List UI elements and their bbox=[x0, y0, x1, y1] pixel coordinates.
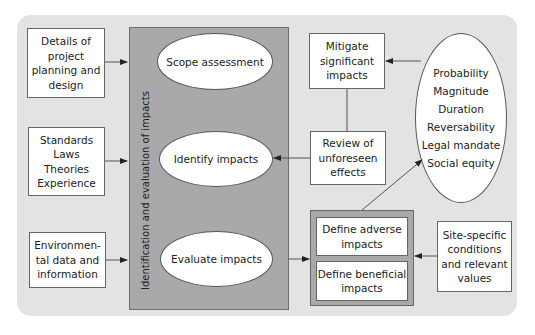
connector-arrows bbox=[0, 0, 535, 335]
arrow-define-to-criteria bbox=[362, 160, 422, 210]
